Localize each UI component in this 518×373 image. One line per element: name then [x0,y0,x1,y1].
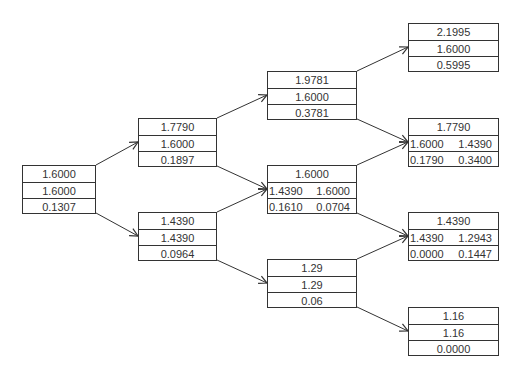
node-value: 1.16 [443,310,464,322]
node-row: 1.7790 [409,119,498,135]
node-value: 1.6000 [410,136,444,151]
node-row: 1.4390 [139,229,216,245]
node-value: 1.7790 [437,121,471,133]
node-value: 1.7790 [161,121,195,133]
node-row: 1.29 [268,260,356,276]
tree-node: 1.60001.43901.60000.16100.0704 [267,165,357,214]
tree-node: 1.97811.60000.3781 [267,71,357,120]
node-value: 0.3781 [295,107,329,119]
node-row: 1.60001.4390 [409,135,498,151]
node-value: 0.5995 [437,59,471,71]
tree-node: 2.19951.60000.5995 [408,23,499,72]
node-row: 1.29 [268,276,356,292]
node-row: 1.9781 [268,72,356,88]
node-value: 1.6000 [437,43,471,55]
arrow-edge [357,142,408,165]
node-row: 1.6000 [23,182,95,198]
node-value: 1.2943 [458,230,492,245]
tree-node: 1.60001.60000.1307 [22,165,96,214]
arrow-edge [96,142,138,165]
node-row: 1.6000 [139,135,216,151]
node-row: 0.1897 [139,151,216,167]
node-row: 0.06 [268,292,356,308]
arrow-edge [357,47,408,71]
node-value: 0.0000 [437,343,471,355]
node-value: 0.06 [301,295,322,307]
node-row: 1.4390 [139,213,216,229]
node-value: 0.1897 [161,154,195,166]
node-row: 1.6000 [23,166,95,182]
node-value: 0.1307 [42,201,76,213]
node-row: 1.43901.2943 [409,229,498,245]
node-value: 1.4390 [161,232,195,244]
node-value: 0.0000 [410,246,444,261]
arrow-edge [217,189,267,212]
node-row: 0.0964 [139,245,216,261]
node-row: 1.6000 [409,40,498,56]
node-row: 0.17900.3400 [409,151,498,167]
node-value: 1.29 [301,262,322,274]
node-value: 1.6000 [295,168,329,180]
node-value: 1.29 [301,279,322,291]
node-row: 0.5995 [409,56,498,72]
node-value: 1.6000 [295,91,329,103]
tree-node: 1.161.160.0000 [408,307,499,356]
node-value: 0.1447 [458,246,492,261]
node-value: 2.1995 [437,26,471,38]
node-row: 0.00000.1447 [409,245,498,261]
arrow-edge [357,307,408,331]
arrow-edge [357,119,408,142]
node-row: 1.6000 [268,166,356,182]
node-value: 1.4390 [161,215,195,227]
node-value: 0.3400 [458,152,492,167]
node-value: 0.0964 [161,248,195,260]
node-row: 1.7790 [139,119,216,135]
node-value: 1.9781 [295,74,329,86]
arrow-edge [217,260,267,283]
arrow-edge [217,166,267,189]
node-value: 1.16 [443,327,464,339]
arrow-edge [217,95,267,118]
node-value: 1.4390 [437,215,471,227]
node-value: 1.4390 [410,230,444,245]
node-row: 0.3781 [268,104,356,120]
node-value: 1.6000 [42,168,76,180]
node-row: 0.0000 [409,340,498,356]
tree-node: 1.291.290.06 [267,259,357,308]
arrow-edge [357,213,408,236]
node-value: 0.1790 [410,152,444,167]
node-row: 0.16100.0704 [268,198,356,214]
node-row: 1.6000 [268,88,356,104]
node-row: 0.1307 [23,198,95,214]
arrow-edge [96,213,138,236]
node-value: 0.0704 [316,199,350,214]
node-value: 0.1610 [269,199,303,214]
node-row: 1.43901.6000 [268,182,356,198]
node-row: 1.16 [409,308,498,324]
node-value: 1.6000 [316,183,350,198]
node-row: 1.16 [409,324,498,340]
tree-node: 1.43901.43900.0964 [138,212,217,261]
arrow-edge [357,236,408,259]
node-value: 1.6000 [42,185,76,197]
tree-node: 1.77901.60000.1897 [138,118,217,167]
tree-node: 1.77901.60001.43900.17900.3400 [408,118,499,167]
node-row: 2.1995 [409,24,498,40]
node-value: 1.4390 [458,136,492,151]
node-row: 1.4390 [409,213,498,229]
node-value: 1.4390 [269,183,303,198]
tree-node: 1.43901.43901.29430.00000.1447 [408,212,499,261]
node-value: 1.6000 [161,138,195,150]
